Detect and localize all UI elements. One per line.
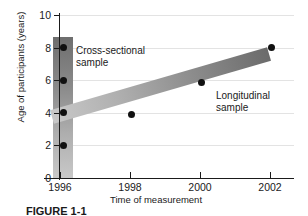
x-tick-mark-1996 [60,172,61,179]
y-tick-label-10: 10 [27,10,51,21]
y-tick-label-6: 6 [27,75,51,86]
data-point [60,77,67,84]
y-tick-label-4: 4 [27,108,51,119]
x-tick-label-2000: 2000 [177,182,223,193]
x-tick-mark-1998 [130,172,131,179]
x-axis-line [44,178,294,179]
y-axis-line [59,13,60,180]
gridline-10 [60,15,294,16]
data-point [60,44,67,51]
data-point [128,111,135,118]
y-tick-label-8: 8 [27,43,51,54]
figure-caption: FIGURE 1-1 [26,205,87,216]
x-axis-title: Time of measurement [110,195,202,205]
longitudinal-annotation: Longitudinal sample [216,90,270,113]
gridline-2 [60,145,294,146]
x-tick-label-1998: 1998 [107,182,153,193]
data-point [60,142,67,149]
figure-container: 10 8 6 4 2 0 1996 1998 2000 2002 Age of … [0,0,308,216]
x-tick-label-1996: 1996 [37,182,83,193]
y-axis-title: Age of participants (years) [16,0,26,142]
data-point [198,79,205,86]
y-tick-stub-10 [54,15,60,16]
x-tick-mark-2000 [200,172,201,179]
x-tick-label-2002: 2002 [247,182,293,193]
x-tick-mark-2002 [270,172,271,179]
y-tick-label-2: 2 [27,140,51,151]
cross-sectional-annotation: Cross-sectional sample [76,45,145,68]
data-point [268,44,275,51]
data-point [60,109,67,116]
